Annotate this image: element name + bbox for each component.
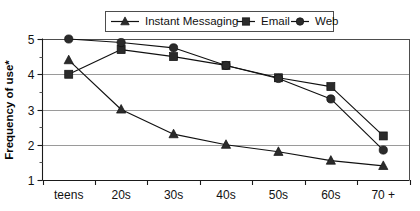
legend-marker (296, 18, 304, 26)
x-tick-label: 40s (216, 188, 235, 202)
legend-label: Email (261, 15, 290, 27)
x-tick-label: 60s (321, 188, 340, 202)
x-tick-label: 20s (111, 188, 130, 202)
line-chart: Frequency of use* 12345 teens20s30s40s50… (0, 0, 420, 211)
series-line (69, 60, 384, 166)
x-tick-label: teens (54, 188, 83, 202)
data-point (65, 35, 73, 43)
y-tick-label: 2 (28, 139, 35, 153)
series-web (69, 39, 384, 150)
y-tick-label: 5 (28, 33, 35, 47)
data-point (274, 74, 282, 82)
data-point (117, 38, 125, 46)
y-tick-label: 4 (28, 68, 35, 82)
y-axis-tick-labels: 12345 (28, 33, 35, 188)
x-axis-tick-labels: teens20s30s40s50s60s70 + (54, 188, 395, 202)
series-line (69, 39, 384, 150)
data-point (64, 55, 73, 64)
data-point (327, 95, 335, 103)
series-instant-messaging (69, 60, 384, 166)
chart-figure: Frequency of use* 12345 teens20s30s40s50… (0, 0, 420, 211)
data-point (327, 83, 335, 91)
gridlines (43, 40, 410, 146)
y-axis-title: Frequency of use* (3, 60, 15, 160)
legend-label: Instant Messaging (145, 15, 238, 27)
y-axis-ticks (38, 40, 43, 181)
y-tick-label: 3 (28, 104, 35, 118)
markers-instant-messaging (64, 55, 388, 169)
data-point (379, 146, 387, 154)
x-tick-label: 50s (269, 188, 288, 202)
data-point (169, 44, 177, 52)
x-tick-label: 70 + (371, 188, 395, 202)
legend-marker (242, 18, 249, 25)
series-layer (64, 35, 388, 170)
chart-legend: Instant MessagingEmailWeb (106, 12, 339, 32)
legend-label: Web (315, 15, 338, 27)
data-point (169, 129, 178, 138)
y-tick-label: 1 (28, 174, 35, 188)
data-point (65, 70, 73, 78)
data-point (222, 61, 230, 69)
data-point (170, 53, 178, 61)
data-point (379, 132, 387, 140)
x-tick-label: 30s (164, 188, 183, 202)
markers-email (65, 46, 388, 140)
